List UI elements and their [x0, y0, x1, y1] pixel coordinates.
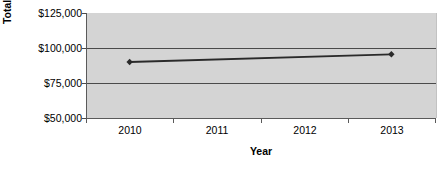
x-tick-label: 2010 — [90, 124, 170, 136]
y-tick-label: $75,000 — [14, 78, 82, 89]
x-tick-mark — [261, 118, 262, 123]
y-tick-label: $125,000 — [14, 8, 82, 19]
x-tick-mark — [86, 118, 87, 123]
gridline-100000 — [87, 48, 436, 49]
y-axis-title: Total Compensation — [0, 0, 14, 27]
y-axis-tick-labels: $125,000 $100,000 $75,000 $50,000 — [14, 0, 82, 171]
x-tick-mark — [435, 118, 436, 123]
x-tick-label: 2013 — [352, 124, 432, 136]
x-tick-mark — [173, 118, 174, 123]
x-tick-mark — [348, 118, 349, 123]
gridline-75000 — [87, 83, 436, 84]
x-axis-title: Year — [86, 145, 436, 158]
plot-area — [86, 13, 436, 118]
x-tick-label: 2011 — [177, 124, 257, 136]
line-chart: Total Compensation $125,000 $100,000 $75… — [0, 0, 442, 171]
y-tick-label: $50,000 — [14, 113, 82, 124]
y-tick-label: $100,000 — [14, 43, 82, 54]
x-tick-label: 2012 — [265, 124, 345, 136]
